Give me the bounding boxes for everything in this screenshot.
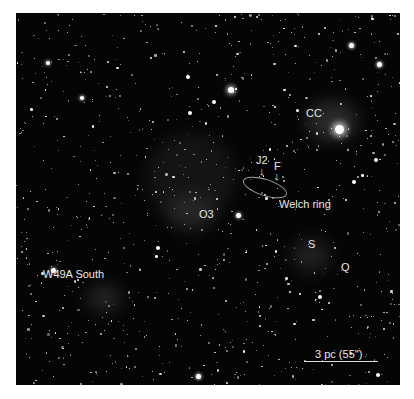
star [104,193,105,194]
star [184,149,185,150]
star [88,320,90,322]
star [21,132,22,133]
star [243,343,244,344]
star [35,380,37,382]
star [347,149,349,151]
star [107,61,109,63]
star [79,236,81,238]
star [279,32,280,33]
star [21,246,22,247]
star [167,119,169,121]
star [174,140,175,141]
star [370,135,373,138]
star [46,77,47,78]
star [68,100,69,101]
star [261,19,262,20]
star [56,118,59,121]
star [321,65,322,66]
star [145,156,147,158]
star [335,49,338,52]
starfield-image: CC J2 ↓ F ↓ Welch ring O3 S Q W49A South… [16,13,400,385]
star [369,337,370,338]
star [309,55,310,56]
star [38,38,39,39]
star [186,243,187,244]
star [219,15,221,17]
star [169,260,170,261]
star [32,82,34,84]
star [112,35,113,36]
star [291,280,292,281]
star [154,54,157,57]
star [387,357,388,358]
star [216,198,218,200]
star [270,233,272,235]
star [389,221,390,222]
star [267,42,269,44]
star [72,19,73,20]
star [68,240,69,241]
star [208,189,209,190]
star [25,123,26,124]
star [27,208,29,210]
star [299,234,300,235]
star [379,271,380,272]
star [162,363,164,365]
star [259,384,260,385]
star [258,270,259,271]
star [228,223,229,224]
star [216,74,218,76]
star [169,278,170,279]
star [120,155,121,156]
star [169,362,170,363]
star [283,153,284,154]
star [164,372,165,373]
star [159,355,160,356]
star [318,145,319,146]
star [212,277,213,278]
star [142,21,143,22]
star [118,108,119,109]
star [397,33,399,35]
star [374,42,375,43]
star [130,265,131,266]
star [357,253,358,254]
star [51,61,52,62]
star [85,79,86,80]
star [360,145,361,146]
star [327,336,328,337]
star [331,364,333,366]
star [41,282,42,283]
star [265,318,267,320]
star [26,353,27,354]
star [195,192,196,193]
star [108,305,110,307]
star [268,331,269,332]
star [67,333,68,334]
star [188,111,192,115]
star [271,122,272,123]
star [272,15,273,16]
star [208,342,210,344]
star [251,74,252,75]
star [81,229,82,230]
star [276,203,277,204]
star [334,69,335,70]
star [333,288,335,290]
star [223,259,226,262]
star [398,224,400,226]
star [209,275,210,276]
star [198,275,199,276]
star [186,288,188,290]
star [316,149,318,151]
star [124,342,125,343]
star [154,171,155,172]
star [77,217,78,218]
star [212,100,216,104]
star [146,42,148,44]
star [137,188,138,189]
star [305,97,308,100]
star [58,150,59,151]
star [188,177,189,178]
star [381,374,382,375]
